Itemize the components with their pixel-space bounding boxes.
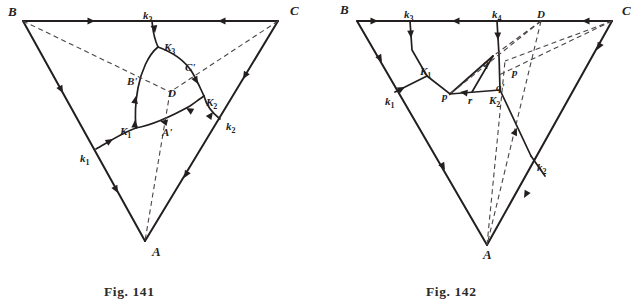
curve-K3-C-prime-K2 bbox=[158, 47, 204, 96]
arrow-CA-2 bbox=[521, 190, 531, 200]
dash-C-D bbox=[170, 21, 278, 92]
label-B-prime: B' bbox=[126, 75, 137, 87]
label-K3-subscript: 3 bbox=[171, 47, 175, 56]
geometry-figures-canvas: BCAk3K3B'C'DK2k2K1A'k1BCAk3k4DqpK1q'p'rK… bbox=[0, 0, 632, 308]
edge-BA bbox=[357, 21, 487, 245]
label-K2-subscript: 2 bbox=[213, 102, 217, 111]
figure-caption-left: Fig. 141 bbox=[104, 284, 155, 300]
label-D: D bbox=[536, 8, 545, 20]
label-K3: K3 bbox=[163, 41, 175, 56]
label-K2: K2 bbox=[488, 94, 500, 109]
vertex-label-A: A bbox=[482, 247, 492, 262]
arrow-BC-1 bbox=[371, 18, 379, 25]
label-k2-subscript: 2 bbox=[543, 167, 547, 176]
arrow-B-branch-2 bbox=[131, 120, 138, 128]
vertex-label-B: B bbox=[7, 4, 17, 19]
figure-board: BCAk3K3B'C'DK2k2K1A'k1BCAk3k4DqpK1q'p'rK… bbox=[0, 0, 632, 308]
dash-B-D bbox=[23, 21, 170, 92]
label-k3-subscript: 3 bbox=[410, 14, 414, 23]
label-A-prime: A' bbox=[161, 126, 172, 138]
label-K1-subscript: 1 bbox=[127, 131, 131, 140]
arrow-k3-down bbox=[407, 30, 414, 38]
label-k1: k1 bbox=[385, 95, 395, 110]
label-K1: K1 bbox=[119, 125, 131, 140]
label-p-prime: p' bbox=[441, 90, 451, 102]
curve-K1-A-prime-K2 bbox=[136, 96, 204, 128]
label-k4-subscript: 4 bbox=[498, 14, 502, 23]
label-K2-subscript: 2 bbox=[496, 100, 500, 109]
arrow-BC-2 bbox=[452, 18, 460, 25]
label-D: D bbox=[167, 87, 176, 99]
arrow-BC-3 bbox=[582, 18, 590, 25]
label-k1: k1 bbox=[80, 152, 90, 167]
seg-K2-k2 bbox=[500, 90, 531, 156]
arrow-k4-down bbox=[494, 32, 501, 40]
label-k3-subscript: 3 bbox=[149, 15, 153, 24]
arrow-B-branch-1 bbox=[131, 95, 139, 104]
label-r: r bbox=[468, 94, 473, 106]
arrow-CA-1 bbox=[240, 71, 250, 81]
fig-141: BCAk3K3B'C'DK2k2K1A'k1 bbox=[7, 3, 299, 259]
vertex-label-C: C bbox=[290, 3, 299, 18]
label-K1-subscript: 1 bbox=[427, 71, 431, 80]
arrow-k3-K3 bbox=[151, 25, 159, 33]
arrow-BA-1 bbox=[56, 85, 66, 95]
curve-k3-K3 bbox=[152, 21, 158, 47]
label-q: q bbox=[483, 57, 489, 69]
dash-C-p bbox=[505, 21, 612, 61]
label-k2-subscript: 2 bbox=[232, 126, 236, 135]
label-k1-subscript: 1 bbox=[86, 158, 90, 167]
label-p: p bbox=[511, 66, 518, 78]
label-K2: K2 bbox=[205, 96, 217, 111]
arrow-k1-branch bbox=[105, 136, 115, 146]
label-k2: k2 bbox=[537, 161, 547, 176]
arrow-BC-2 bbox=[218, 18, 226, 25]
label-k1-subscript: 1 bbox=[391, 101, 395, 110]
edge-CA bbox=[487, 21, 612, 245]
fig-142: BCAk3k4DqpK1q'p'rK2k1k2 bbox=[339, 2, 631, 262]
vertex-label-B: B bbox=[339, 2, 349, 17]
vertex-label-C: C bbox=[622, 3, 631, 18]
arrow-BC-1 bbox=[88, 18, 96, 25]
label-C-prime: C' bbox=[185, 61, 195, 73]
figure-caption-right: Fig. 142 bbox=[426, 284, 477, 300]
vertex-label-A: A bbox=[151, 244, 161, 259]
label-k2: k2 bbox=[226, 120, 236, 135]
label-q-prime: q' bbox=[496, 81, 505, 93]
curve-K3-B-prime-K1 bbox=[135, 47, 158, 128]
